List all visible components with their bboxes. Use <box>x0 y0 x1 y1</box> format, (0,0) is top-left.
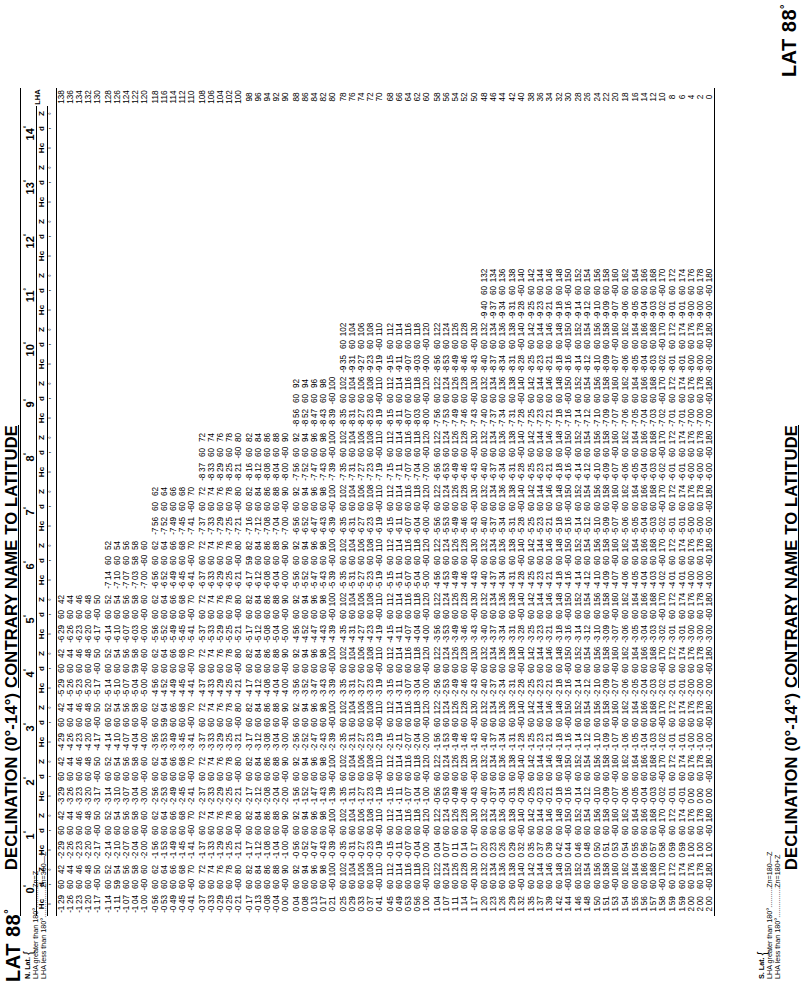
table-row: -0 456068-1 456068-2 456068-3 456068-4 4… <box>178 88 187 916</box>
hc-value: -5 06 <box>620 514 631 538</box>
hc-value: -4 31 <box>508 568 517 592</box>
d-header: d <box>36 175 47 190</box>
z-value: 100 <box>328 538 337 553</box>
d-value: 60 <box>225 877 234 892</box>
hc-value: -0 27 <box>357 838 366 862</box>
table-row: 1 00-601200 00-60120-1 00-60120-2 00-601… <box>422 88 431 916</box>
z-value: 152 <box>573 430 584 445</box>
blank-cell <box>432 160 443 175</box>
blank-cell <box>169 460 178 484</box>
hc-value: -6 02 <box>658 460 667 484</box>
blank-cell <box>216 406 225 430</box>
z-value: 56 <box>122 862 131 877</box>
blank-cell <box>75 229 84 244</box>
d-value: -60 <box>281 769 290 784</box>
degree-header-1: 1° <box>21 808 37 862</box>
blank-cell <box>479 214 490 229</box>
d-value: 60 <box>508 823 517 838</box>
blank-cell <box>102 352 113 376</box>
hc-value: -1 11 <box>395 784 404 808</box>
z-value: 134 <box>489 322 498 337</box>
hc-value: -4 07 <box>611 568 620 592</box>
z-value: 82 <box>243 646 254 661</box>
hc-value: -1 39 <box>328 784 337 808</box>
hc-value: -6 00 <box>687 460 696 484</box>
hc-value: -7 04 <box>272 514 281 538</box>
z-value: 156 <box>593 484 602 499</box>
z-value: 84 <box>254 646 263 661</box>
d-value: -60 <box>705 769 715 784</box>
z-value: 144 <box>536 862 545 877</box>
blank-cell <box>149 322 160 337</box>
blank-cell <box>413 268 422 283</box>
d-value: 60 <box>385 337 396 352</box>
blank-cell <box>395 121 404 136</box>
hc-value: -4 43 <box>470 568 479 592</box>
d-value: 60 <box>687 661 696 676</box>
blank-cell <box>131 484 140 499</box>
d-value: 60 <box>404 877 413 892</box>
blank-cell <box>75 190 84 214</box>
d-value: 60 <box>160 499 169 514</box>
blank-cell <box>187 445 196 460</box>
hc-value: -7 56 <box>290 460 301 484</box>
hc-value: -7 34 <box>498 406 507 430</box>
blank-cell <box>122 352 131 376</box>
blank-cell <box>310 268 319 283</box>
blank-cell <box>432 268 443 283</box>
d-value: 59 <box>243 553 254 568</box>
d-value: 60 <box>337 337 348 352</box>
blank-cell <box>131 244 140 268</box>
z-value: 48 <box>84 700 93 715</box>
d-value: 60 <box>404 769 413 784</box>
d-value: -60 <box>422 445 431 460</box>
lha-value: 80 <box>328 88 337 106</box>
blank-cell <box>122 406 131 430</box>
blank-cell <box>319 106 328 121</box>
lha-value: 58 <box>432 88 443 106</box>
d-value: 60 <box>357 391 366 406</box>
sight-reduction-table-wrap: 0°1°2°3°4°5°6°7°8°9°10°11°12°13°14°LHAHc… <box>20 66 782 916</box>
blank-cell <box>93 160 102 175</box>
hc-value: -5 12 <box>254 622 263 646</box>
blank-cell <box>84 445 93 460</box>
d-value: 60 <box>66 607 75 622</box>
hc-value: -2 18 <box>555 676 564 700</box>
z-value: 148 <box>555 646 564 661</box>
blank-cell <box>470 190 479 214</box>
z-value: 116 <box>404 430 413 445</box>
blank-cell <box>160 391 169 406</box>
blank-cell <box>84 106 93 121</box>
z-value: 112 <box>385 808 396 823</box>
table-row: -0 566062-1 566062-2 566062-3 566062-4 5… <box>149 88 160 916</box>
hc-value: -4 07 <box>122 730 131 754</box>
z-value: 104 <box>348 862 357 877</box>
hc-value: -2 08 <box>263 784 272 808</box>
d-value: 60 <box>432 769 443 784</box>
d-value: 60 <box>696 445 705 460</box>
hc-value: -7 04 <box>640 406 649 430</box>
hc-value: -5 46 <box>460 514 469 538</box>
blank-cell <box>611 229 620 244</box>
hc-value: -5 00 <box>281 622 290 646</box>
hc-value: -5 02 <box>658 514 667 538</box>
hc-value: 0 08 <box>301 892 310 916</box>
hc-value: -0 52 <box>301 838 310 862</box>
blank-cell <box>470 121 479 136</box>
blank-cell <box>102 298 113 322</box>
hc-value: -5 04 <box>131 676 140 700</box>
hc-value: -0 21 <box>234 892 243 916</box>
hc-value: 0 33 <box>357 892 366 916</box>
blank-cell <box>337 106 348 121</box>
d-value: 60 <box>310 715 319 730</box>
blank-cell <box>404 229 413 244</box>
d-value: 60 <box>122 715 131 730</box>
z-value: 136 <box>498 538 507 553</box>
blank-cell <box>207 121 216 136</box>
hc-value: -5 19 <box>375 568 384 592</box>
lha-value: 114 <box>169 88 178 106</box>
d-value: 60 <box>319 607 328 622</box>
z-value: 108 <box>366 322 375 337</box>
hc-value: -4 56 <box>290 622 301 646</box>
hc-value: -3 41 <box>187 730 196 754</box>
